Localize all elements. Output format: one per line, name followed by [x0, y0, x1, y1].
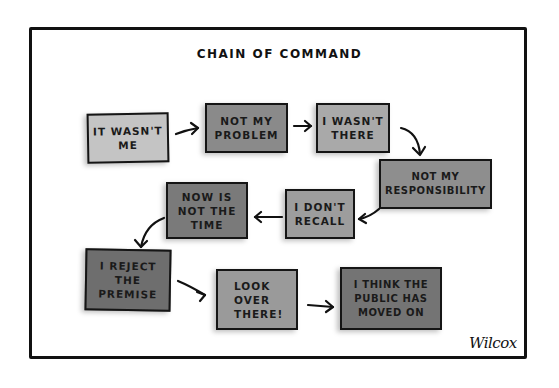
- box-line: MOVED ON: [354, 306, 428, 320]
- box-line: RECALL: [294, 214, 345, 228]
- artist-signature: Wilcox: [469, 334, 517, 352]
- cartoon-title: CHAIN OF COMMAND: [0, 47, 559, 61]
- box-it-wasnt-me: IT WASN'T ME: [87, 112, 170, 163]
- box-not-my-responsibility: NOT MY RESPONSIBILITY: [379, 159, 492, 209]
- box-line: PREMISE: [98, 286, 157, 301]
- box-line: THE: [98, 272, 157, 287]
- box-i-dont-recall: I DON'T RECALL: [285, 189, 355, 239]
- box-line: NOW IS: [178, 190, 237, 204]
- box-line: OVER: [234, 293, 283, 307]
- box-line: PROBLEM: [214, 128, 278, 142]
- arrow-curve-right-icon: [176, 278, 210, 304]
- arrow-right-icon: [306, 298, 336, 314]
- box-line: RESPONSIBILITY: [385, 184, 486, 198]
- arrow-right-icon: [174, 120, 202, 140]
- box-line: TIME: [178, 218, 237, 232]
- arrow-left-icon: [252, 210, 284, 224]
- box-line: PUBLIC HAS: [354, 292, 428, 306]
- arrow-curve-left-icon: [356, 205, 382, 225]
- box-line: I THINK THE: [354, 278, 428, 292]
- arrow-curve-down-icon: [398, 124, 430, 160]
- box-i-reject-the-premise: I REJECT THE PREMISE: [84, 248, 171, 311]
- box-line: NOT MY: [214, 114, 278, 128]
- box-not-my-problem: NOT MY PROBLEM: [205, 103, 288, 153]
- box-i-wasnt-there: I WASN'T THERE: [316, 103, 390, 153]
- box-line: I REJECT: [99, 258, 158, 273]
- arrow-curve-down-left-icon: [131, 215, 167, 251]
- box-line: THERE!: [234, 307, 283, 321]
- box-line: ME: [93, 137, 163, 152]
- box-line: IT WASN'T: [93, 123, 163, 138]
- arrow-right-icon: [292, 118, 314, 134]
- box-i-think-the-public-has-moved-on: I THINK THE PUBLIC HAS MOVED ON: [340, 267, 442, 330]
- box-look-over-there: LOOK OVER THERE!: [216, 269, 298, 330]
- box-line: NOT MY: [385, 170, 486, 184]
- box-now-is-not-the-time: NOW IS NOT THE TIME: [166, 182, 248, 239]
- box-line: NOT THE: [178, 204, 237, 218]
- box-line: I DON'T: [294, 200, 345, 214]
- box-line: LOOK: [234, 279, 283, 293]
- box-line: I WASN'T: [322, 114, 384, 128]
- box-line: THERE: [322, 128, 384, 142]
